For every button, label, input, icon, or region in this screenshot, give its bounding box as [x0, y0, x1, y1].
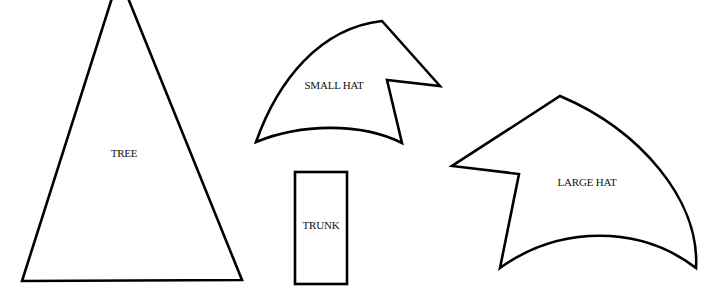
trunk-label: TRUNK	[303, 219, 340, 231]
large-hat-label: LARGE HAT	[557, 176, 616, 188]
small-hat-shape: SMALL HAT	[256, 21, 440, 143]
tree-label: TREE	[111, 147, 138, 159]
tree-shape: TREE	[22, 0, 242, 281]
small-hat-label: SMALL HAT	[304, 79, 364, 91]
large-hat-shape: LARGE HAT	[452, 96, 696, 268]
cutout-templates-diagram: TREE SMALL HAT TRUNK LARGE HAT	[0, 0, 712, 300]
trunk-shape: TRUNK	[295, 172, 347, 284]
